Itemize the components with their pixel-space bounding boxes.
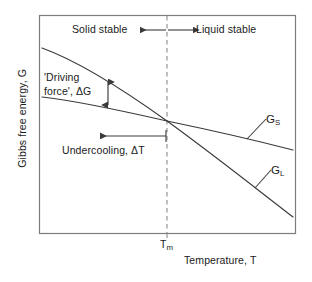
solid-curve-leader-line bbox=[247, 119, 266, 139]
gibbs-free-energy-diagram: Gibbs free energy, G Temperature, T Tm S… bbox=[0, 0, 312, 282]
x-axis-label: Temperature, T bbox=[184, 254, 256, 267]
driving-force-annotation-line1: 'Driving bbox=[44, 70, 91, 84]
liquid-curve-leader-line bbox=[255, 170, 271, 188]
melting-point-label: Tm bbox=[160, 238, 173, 251]
driving-force-annotation-line2: force', ΔG bbox=[44, 84, 91, 98]
y-axis-label: Gibbs free energy, G bbox=[16, 33, 29, 203]
liquid-stable-region-label: Liquid stable bbox=[196, 23, 256, 36]
undercooling-annotation: Undercooling, ΔT bbox=[62, 144, 145, 157]
liquid-curve-label: GL bbox=[271, 163, 284, 177]
solid-curve-label-subscript: S bbox=[275, 118, 280, 127]
solid-stable-region-label: Solid stable bbox=[72, 23, 127, 36]
plot-canvas bbox=[0, 0, 312, 282]
liquid-curve-label-subscript: L bbox=[280, 169, 284, 178]
solid-curve-label: GS bbox=[266, 112, 280, 126]
solid-curve-label-base: G bbox=[266, 113, 275, 125]
melting-point-label-base: T bbox=[160, 238, 167, 250]
melting-point-label-subscript: m bbox=[167, 243, 174, 252]
driving-force-annotation: 'Drivingforce', ΔG bbox=[44, 70, 91, 98]
liquid-curve-label-base: G bbox=[271, 164, 280, 176]
